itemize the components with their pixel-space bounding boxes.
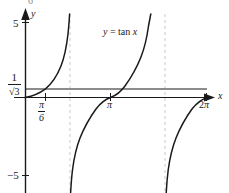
x-axis-label: x bbox=[218, 91, 222, 101]
x-tick-label-pi: π bbox=[107, 100, 112, 110]
cropped-text-artifact: · · bbox=[112, 0, 126, 4]
x-tick-label-2pi: 2π bbox=[199, 100, 209, 110]
fraction-numerator: 1 bbox=[8, 72, 21, 83]
x-tick-label-pi-over-6: π 6 bbox=[38, 100, 45, 123]
y-tick-label-5: 5 bbox=[13, 18, 19, 29]
curve-equation-annotation: y = tan x bbox=[103, 27, 137, 37]
equation-rhs: x bbox=[133, 26, 137, 37]
tangent-function-graph: y x 5 −5 1 √3 π 6 π 2π y = tan x 6 · · bbox=[0, 0, 229, 193]
equation-operator: = tan bbox=[107, 26, 132, 37]
y-axis-label: y bbox=[31, 9, 35, 19]
y-axis-arrowhead bbox=[21, 8, 30, 20]
cropped-digit-artifact: 6 bbox=[28, 0, 33, 6]
fraction-bar bbox=[8, 84, 21, 85]
y-tick-label-one-over-root-three: 1 √3 bbox=[8, 72, 21, 97]
tan-curve-branch-1 bbox=[25, 14, 70, 98]
fraction-denominator: 6 bbox=[38, 113, 45, 123]
fraction-numerator: π bbox=[38, 100, 45, 110]
pi-symbol: π bbox=[204, 99, 209, 110]
fraction-denominator: √3 bbox=[8, 86, 21, 97]
tan-curve-branch-3 bbox=[166, 98, 206, 193]
y-tick-label-negative-5: −5 bbox=[7, 170, 19, 181]
